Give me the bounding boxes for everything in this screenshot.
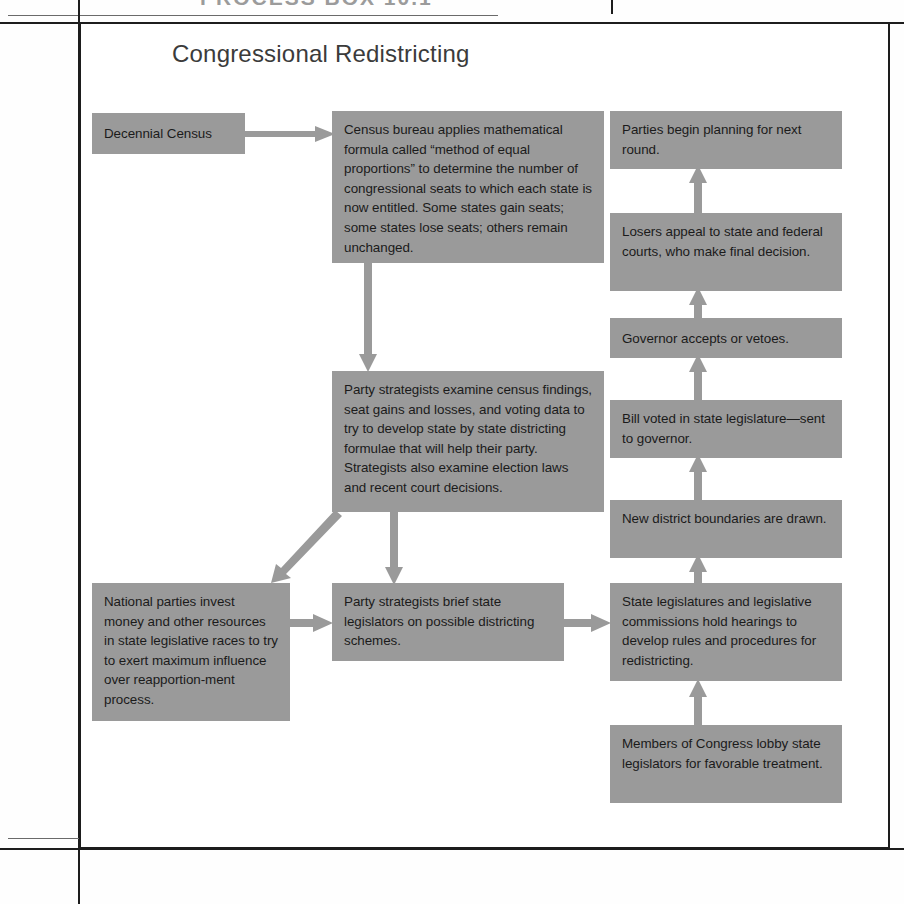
node-state-legislatures-hearings-label: State legislatures and legislative commi… bbox=[622, 594, 816, 668]
arrow-boundaries-to-bill bbox=[690, 454, 712, 504]
node-governor-accepts[interactable]: Governor accepts or vetoes. bbox=[610, 318, 842, 358]
node-census-bureau-formula[interactable]: Census bureau applies mathematical formu… bbox=[332, 111, 604, 263]
node-census-bureau-formula-label: Census bureau applies mathematical formu… bbox=[344, 122, 592, 255]
page-canvas: PROCESS BOX 10.1 Congressional Redistric… bbox=[0, 0, 904, 904]
arrow-national-to-brief bbox=[289, 613, 335, 633]
node-parties-begin-planning-label: Parties begin planning for next round. bbox=[622, 122, 801, 157]
node-parties-begin-planning[interactable]: Parties begin planning for next round. bbox=[610, 111, 842, 169]
arrow-bill-to-governor bbox=[690, 354, 712, 404]
header-tick-mark bbox=[611, 0, 613, 14]
node-losers-appeal-label: Losers appeal to state and federal court… bbox=[622, 224, 823, 259]
arrow-strategists-to-national bbox=[255, 510, 345, 590]
node-national-parties-invest-label: National parties invest money and other … bbox=[104, 594, 278, 707]
node-members-of-congress-lobby-label: Members of Congress lobby state legislat… bbox=[622, 736, 823, 771]
node-decennial-census[interactable]: Decennial Census bbox=[92, 113, 245, 154]
arrow-brief-to-legislatures bbox=[563, 613, 613, 633]
node-state-legislatures-hearings[interactable]: State legislatures and legislative commi… bbox=[610, 583, 842, 681]
node-losers-appeal[interactable]: Losers appeal to state and federal court… bbox=[610, 213, 842, 291]
header-thin-rule bbox=[8, 15, 498, 16]
node-national-parties-invest[interactable]: National parties invest money and other … bbox=[92, 583, 290, 721]
node-party-strategists-examine[interactable]: Party strategists examine census finding… bbox=[332, 371, 604, 512]
arrow-losers-to-parties bbox=[690, 165, 712, 217]
figure-title: Congressional Redistricting bbox=[172, 40, 470, 68]
node-party-strategists-brief[interactable]: Party strategists brief state legislator… bbox=[332, 583, 564, 661]
node-party-strategists-brief-label: Party strategists brief state legislator… bbox=[344, 594, 534, 648]
node-members-of-congress-lobby[interactable]: Members of Congress lobby state legislat… bbox=[610, 725, 842, 803]
node-new-district-boundaries-label: New district boundaries are drawn. bbox=[622, 511, 826, 526]
node-bill-voted-label: Bill voted in state legislature—sent to … bbox=[622, 411, 825, 446]
node-bill-voted[interactable]: Bill voted in state legislature—sent to … bbox=[610, 400, 842, 458]
arrow-census-to-bureau bbox=[245, 124, 337, 144]
arrow-legislatures-to-boundaries bbox=[690, 554, 712, 586]
node-new-district-boundaries[interactable]: New district boundaries are drawn. bbox=[610, 500, 842, 558]
arrow-governor-to-losers bbox=[690, 287, 712, 322]
process-box-header: PROCESS BOX 10.1 bbox=[200, 0, 500, 8]
node-party-strategists-examine-label: Party strategists examine census finding… bbox=[344, 382, 592, 495]
node-governor-accepts-label: Governor accepts or vetoes. bbox=[622, 329, 789, 349]
arrow-strategists-to-brief bbox=[386, 511, 408, 587]
arrow-lobby-to-legislatures bbox=[690, 679, 712, 729]
node-decennial-census-label: Decennial Census bbox=[104, 124, 212, 144]
arrow-bureau-to-strategists bbox=[360, 262, 382, 374]
